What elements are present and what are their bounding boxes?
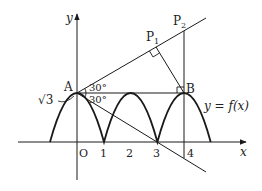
segment-BP1 xyxy=(156,47,184,93)
curve-f xyxy=(50,93,211,142)
x-axis-label: x xyxy=(240,145,247,159)
x-tick-1: 1 xyxy=(100,147,107,160)
y-intercept-label: √3 xyxy=(38,93,53,107)
angle-arc-lower xyxy=(85,93,86,98)
point-B-label: B xyxy=(186,82,195,96)
curve-label: y = f(x) xyxy=(203,99,249,113)
angle-arc-upper xyxy=(85,89,86,94)
point-P2-label: P2 xyxy=(173,14,186,30)
diagram-canvas: y x O 1 2 3 4 A B P1 P2 30° 30° √3 y = f… xyxy=(0,0,262,191)
origin-label: O xyxy=(79,147,88,160)
angle-upper-label: 30° xyxy=(89,82,107,93)
y-axis-label: y xyxy=(65,11,73,25)
sqrt3-pointer xyxy=(58,96,74,102)
angle-lower-label: 30° xyxy=(89,94,107,105)
x-tick-3: 3 xyxy=(153,147,160,160)
right-angle-P1 xyxy=(150,51,160,57)
point-P1-label: P1 xyxy=(146,30,159,46)
point-A-label: A xyxy=(63,80,73,94)
x-tick-4: 4 xyxy=(187,147,194,160)
x-tick-2: 2 xyxy=(126,147,133,160)
